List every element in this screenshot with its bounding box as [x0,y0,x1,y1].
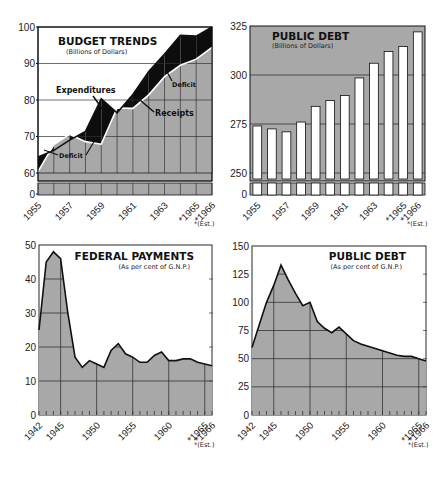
y-tick-label: 325 [230,21,247,32]
x-tick-label: 1960 [365,420,388,443]
x-tick-label: 1957 [269,200,292,223]
bar [370,63,379,179]
receipts-label: Receipts [155,109,194,118]
bar-stub [311,183,320,195]
y-tick-label: 30 [25,308,37,319]
y-tick-label: 90 [24,58,36,69]
deficit-label-2: Deficit [59,152,83,160]
y-tick-label: 250 [230,168,247,179]
x-tick-label: 1959 [84,200,107,223]
y-tick-label: 100 [232,297,249,308]
x-tick-label: 1942 [22,420,45,443]
bar-stub [370,183,379,195]
bar [253,126,262,179]
chart-subtitle: (As per cent of G.N.P.) [331,263,402,271]
bar [340,96,349,179]
bar-stub [253,183,262,195]
y-tick-label: 10 [25,376,37,387]
x-tick-label: 1961 [116,200,139,223]
chart-subtitle: (Billions of Dollars) [272,42,333,50]
bar [282,132,291,179]
x-tick-label: 1955 [21,200,44,223]
bar-stub [326,183,335,195]
y-tick-label: 60 [24,168,36,179]
x-tick-label: 1955 [329,420,352,443]
x-tick-label: 1961 [327,200,350,223]
bar-stub [384,183,393,195]
chart-title: BUDGET TRENDS [58,35,157,47]
deficit-label-1: Deficit [172,81,196,89]
public-debt-billions-chart: 025027530032519551957195919611963*1965*1… [230,21,427,229]
y-tick-label: 300 [230,70,247,81]
x-tick-label: 1957 [52,200,75,223]
x-tick-label: 1959 [298,200,321,223]
bar-stub [413,183,422,195]
bar-stub [340,183,349,195]
x-tick-label: 1960 [151,420,174,443]
x-tick-label: 1945 [43,420,66,443]
public-debt-gnp-chart: 025507510012515019421945195019551960*196… [232,241,431,450]
chart-title: FEDERAL PAYMENTS [75,250,194,262]
footnote: *(Est.) [194,441,214,449]
x-tick-label: 1963 [357,200,380,223]
x-tick-label: 1963 [147,200,170,223]
x-tick-label: 1950 [79,420,102,443]
bar [326,100,335,179]
y-tick-label: 50 [25,240,37,251]
y-tick-label: 0 [29,189,35,200]
bar-stub [268,183,277,195]
x-tick-label: 1950 [293,420,316,443]
y-tick-label: 25 [238,381,250,392]
y-tick-label: 100 [18,22,35,33]
chart-subtitle: (As per cent of G.N.P.) [119,263,190,271]
y-tick-label: 0 [241,189,247,200]
y-tick-label: 20 [25,342,37,353]
bar-stub [399,183,408,195]
bar [311,106,320,179]
y-tick-label: 70 [24,131,36,142]
bar [268,129,277,179]
chart-title: PUBLIC DEBT [329,250,407,262]
expenditures-label: Expenditures [56,86,116,95]
budget-trends-chart: 06070809010019551957195919611963*1965*19… [18,22,217,229]
y-tick-label: 75 [238,325,250,336]
bar [355,78,364,179]
chart-title: PUBLIC DEBT [272,30,350,42]
x-tick-label: 1955 [240,200,263,223]
chart-canvas: 06070809010019551957195919611963*1965*19… [0,0,448,477]
bar-stub [297,183,306,195]
x-tick-label: 1955 [115,420,138,443]
y-tick-label: 50 [238,353,250,364]
bar [413,32,422,179]
x-tick-label: 1942 [235,420,258,443]
bar-stub [282,183,291,195]
y-tick-label: 150 [232,241,249,252]
bar-stub [355,183,364,195]
y-tick-label: 80 [24,95,36,106]
axis-break-strip [38,183,212,195]
y-tick-label: 125 [232,269,249,280]
footnote: *(Est.) [407,220,427,228]
bar [399,47,408,179]
y-tick-label: 0 [30,410,36,421]
x-tick-label: 1945 [256,420,279,443]
bar [384,51,393,179]
federal-payments-chart: 0102030405019421945195019551960*1965*196… [22,240,218,450]
lower-band [38,173,212,181]
y-tick-label: 0 [243,410,249,421]
y-tick-label: 40 [25,274,37,285]
y-tick-label: 275 [230,119,247,130]
bar [297,122,306,179]
footnote: *(Est.) [408,441,428,449]
chart-subtitle: (Billions of Dollars) [66,48,127,56]
footnote: *(Est.) [194,220,214,228]
